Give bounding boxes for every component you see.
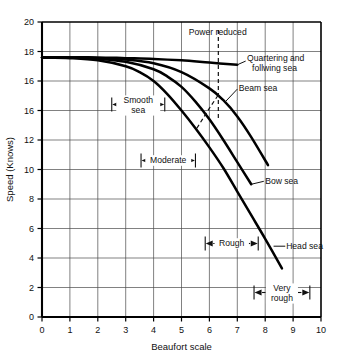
- x-tick-label: 4: [151, 325, 156, 335]
- range-label-line: Rough: [219, 238, 245, 248]
- y-tick-label: 20: [24, 17, 34, 27]
- x-tick-label: 7: [235, 325, 240, 335]
- range-label-line: rough: [271, 293, 293, 303]
- range-arrowhead-left: [255, 290, 262, 296]
- y-tick-label: 16: [24, 106, 34, 116]
- range-arrowhead-right: [251, 241, 258, 247]
- quartering-sea-label-line-2: follwing sea: [252, 63, 297, 73]
- bow-sea-leader: [251, 181, 264, 184]
- x-tick-label: 6: [207, 325, 212, 335]
- range-arrowhead-right: [302, 290, 309, 296]
- x-tick-label: 8: [263, 325, 268, 335]
- quartering-sea-leader: [237, 61, 245, 65]
- range-label-line: sea: [131, 105, 145, 115]
- range-annotation-rough: Rough: [205, 237, 258, 251]
- y-axis-tick-labels: 02468101216161820: [24, 17, 34, 322]
- x-tick-label: 10: [316, 325, 326, 335]
- y-tick-label: 2: [29, 283, 34, 293]
- x-tick-label: 9: [291, 325, 296, 335]
- y-tick-label: 10: [24, 165, 34, 175]
- y-axis-title: Speed (Knows): [4, 137, 15, 202]
- beam-sea-crossing-leader: [197, 96, 218, 128]
- y-tick-label: 12: [24, 135, 34, 145]
- y-tick-label: 8: [29, 194, 34, 204]
- y-tick-label: 4: [29, 253, 34, 263]
- x-tick-label: 0: [39, 325, 44, 335]
- y-tick-label: 16: [24, 76, 34, 86]
- x-tick-label: 2: [95, 325, 100, 335]
- range-annotation-smooth-sea: Smoothsea: [112, 95, 165, 116]
- quartering-sea-label-line-1: Quartering and: [247, 53, 305, 63]
- range-label-line: Moderate: [150, 155, 187, 165]
- range-annotation-moderate: Moderate: [141, 154, 195, 168]
- x-tick-label: 1: [67, 325, 72, 335]
- range-label-line: Very: [273, 283, 291, 293]
- x-tick-label: 3: [123, 325, 128, 335]
- curve-labels: Power reducedQuartering andfollwing seaB…: [189, 27, 323, 251]
- chart-canvas: 012345678910 02468101216161820 Beaufort …: [0, 0, 360, 362]
- x-axis-title: Beaufort scale: [151, 341, 212, 352]
- y-tick-label: 18: [24, 47, 34, 57]
- range-annotation-very-rough: Veryrough: [254, 283, 310, 304]
- bow-sea-label: Bow sea: [265, 176, 298, 186]
- head-sea-label: Head sea: [286, 241, 323, 251]
- power-reduced-label: Power reduced: [189, 27, 247, 37]
- beam-sea-leader: [225, 89, 238, 102]
- beam-sea-label: Beam sea: [239, 83, 278, 93]
- y-tick-label: 0: [29, 312, 34, 322]
- x-tick-label: 5: [179, 325, 184, 335]
- speed-vs-beaufort-chart: 012345678910 02468101216161820 Beaufort …: [0, 0, 360, 362]
- y-tick-label: 6: [29, 224, 34, 234]
- range-label-line: Smooth: [123, 95, 153, 105]
- x-axis-tick-labels: 012345678910: [39, 325, 326, 335]
